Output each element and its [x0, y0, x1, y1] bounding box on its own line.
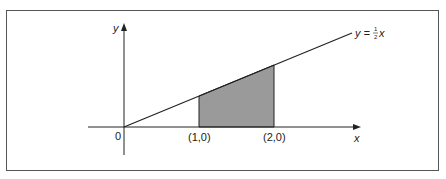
point-label-2: (2,0) — [263, 131, 286, 143]
svg-text:1: 1 — [374, 26, 378, 32]
graph: y x 0 (1,0) (2,0) y = 1 2 x — [0, 0, 446, 179]
y-axis-label: y — [112, 22, 120, 34]
x-axis-label: x — [353, 132, 360, 144]
y-axis-arrow-icon — [121, 23, 127, 31]
svg-text:y =: y = — [354, 27, 371, 39]
svg-text:x: x — [378, 27, 385, 39]
svg-text:2: 2 — [374, 34, 378, 40]
x-axis-arrow-icon — [353, 124, 361, 130]
shaded-area — [199, 65, 274, 127]
equation-label: y = 1 2 x — [354, 26, 385, 40]
origin-label: 0 — [115, 130, 121, 142]
point-label-1: (1,0) — [188, 131, 211, 143]
